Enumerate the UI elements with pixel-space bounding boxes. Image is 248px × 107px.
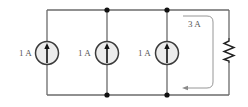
circuit-diagram	[0, 0, 248, 107]
resistor-icon	[224, 38, 234, 63]
node-top-right	[164, 7, 169, 12]
node-bottom-right	[164, 92, 169, 97]
source-1-label: 1 A	[19, 49, 32, 58]
source-3-label: 1 A	[138, 49, 151, 58]
loop-current-label: 3 A	[188, 20, 201, 29]
current-source-3	[156, 42, 179, 65]
node-top-middle	[104, 7, 109, 12]
arrow-left-icon	[182, 86, 188, 90]
current-source-2	[96, 42, 119, 65]
source-2-label: 1 A	[78, 49, 91, 58]
current-source-1	[36, 42, 59, 65]
node-bottom-middle	[104, 92, 109, 97]
